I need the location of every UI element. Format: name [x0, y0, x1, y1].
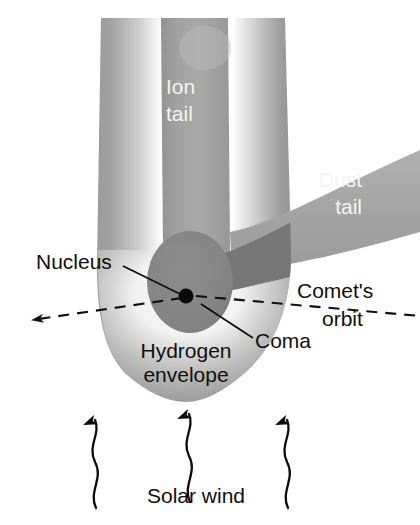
- ion-tail-highlight: [179, 26, 231, 70]
- coma-shape: [147, 231, 233, 333]
- hydrogen-envelope-label-line1: Hydrogen: [140, 339, 231, 362]
- comet-orbit-label-line1: Comet's: [297, 279, 373, 302]
- dust-tail-label-line2: tail: [335, 195, 362, 218]
- nucleus-label: Nucleus: [36, 250, 112, 273]
- hydrogen-envelope-label-line2: envelope: [143, 363, 228, 386]
- comet-diagram: Ion tail Dust tail Nucleus Coma Hydrogen…: [0, 0, 420, 525]
- ion-tail-label-line1: Ion: [166, 75, 195, 98]
- nucleus-dot: [179, 289, 194, 304]
- ion-tail-label-line2: tail: [166, 102, 193, 125]
- comet-diagram-canvas: Ion tail Dust tail Nucleus Coma Hydrogen…: [0, 0, 420, 525]
- solar-wind-arrow-right: [284, 420, 289, 508]
- solar-wind-arrow-left: [92, 420, 97, 508]
- solar-wind-label: Solar wind: [147, 484, 245, 507]
- comet-orbit-label-line2: orbit: [322, 307, 363, 330]
- coma-label: Coma: [255, 329, 311, 352]
- dust-tail-label-line1: Dust: [319, 168, 362, 191]
